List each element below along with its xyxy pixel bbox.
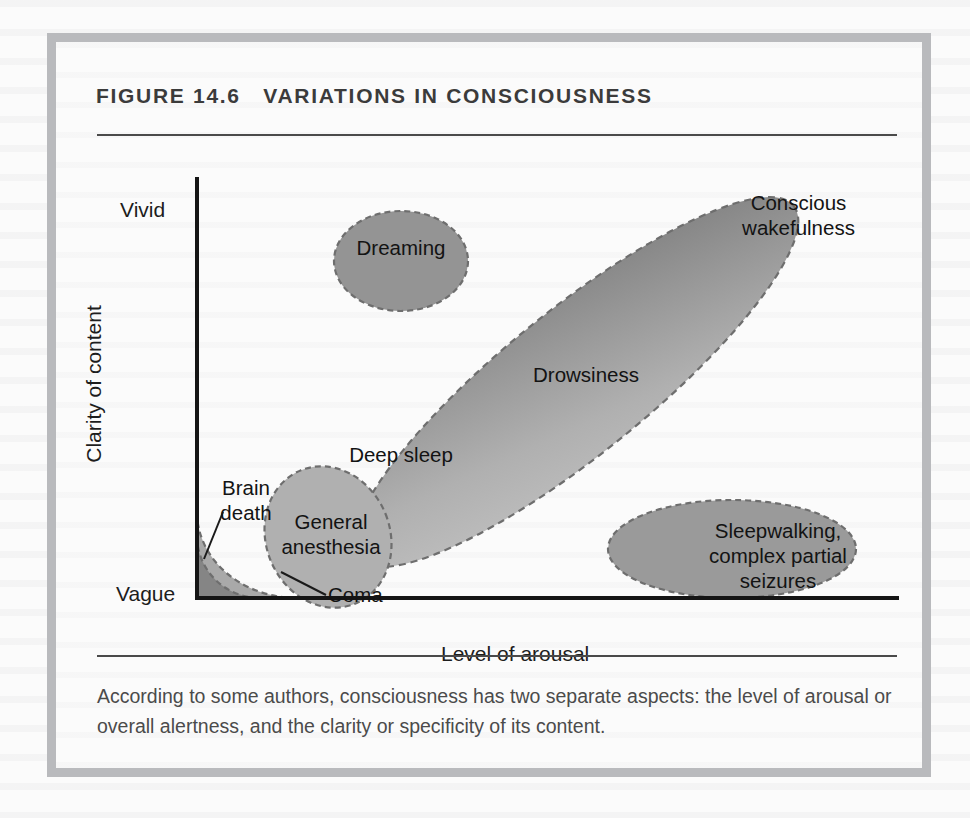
y-axis-min-label: Vague (116, 582, 175, 606)
page-background: FIGURE 14.6 VARIATIONS IN CONSCIOUSNESS (0, 0, 970, 818)
x-axis-title: Level of arousal (441, 642, 589, 666)
figure-caption: According to some authors, consciousness… (97, 681, 902, 741)
region-sleepwalking (608, 500, 856, 598)
y-axis-max-label: Vivid (120, 198, 165, 222)
figure-frame: FIGURE 14.6 VARIATIONS IN CONSCIOUSNESS (47, 33, 931, 777)
consciousness-scatter-svg (56, 42, 940, 786)
chart-plot-area: Vivid Vague Clarity of content Level of … (56, 42, 940, 786)
caption-divider (97, 655, 897, 657)
y-axis-title: Clarity of content (82, 305, 106, 463)
brain-death-leader-line (204, 512, 223, 559)
region-dreaming (334, 211, 468, 311)
